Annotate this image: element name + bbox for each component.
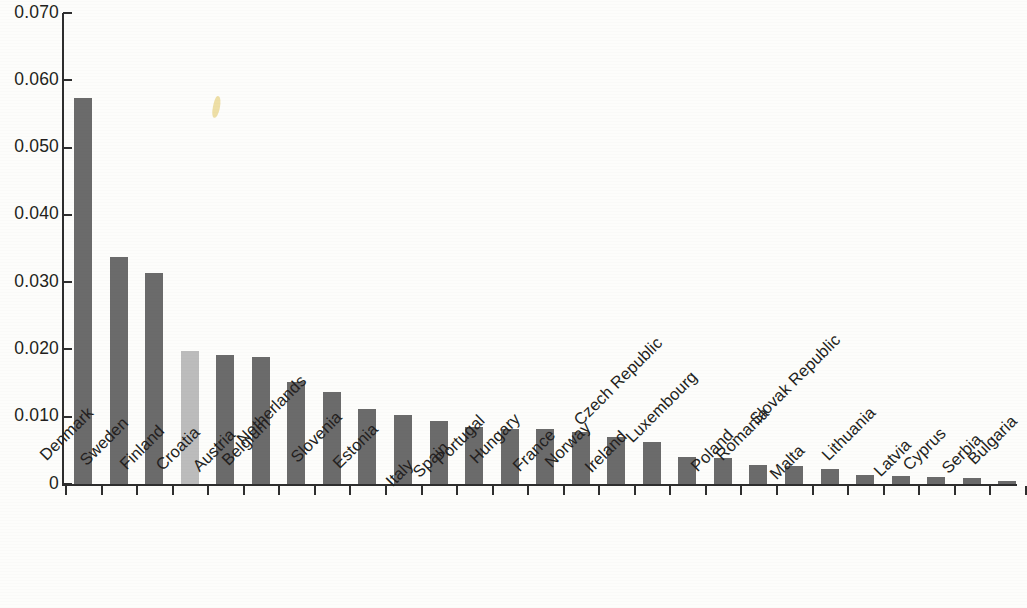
bar-chart-figure: 00.0100.0200.0300.0400.0500.0600.070 Den… (0, 0, 1027, 608)
bar-czech-republic (643, 442, 661, 484)
bars-layer (0, 0, 1027, 608)
bar-latvia (892, 476, 910, 484)
bar-serbia (963, 478, 981, 484)
bar-lithuania (856, 475, 874, 484)
bar-bulgaria (998, 481, 1016, 484)
bar-slovak-republic (821, 469, 839, 484)
bar-cyprus (927, 477, 945, 484)
bar-romania (749, 465, 767, 484)
